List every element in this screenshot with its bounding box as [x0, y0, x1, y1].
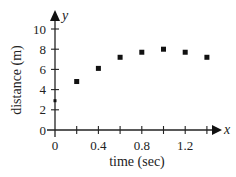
data-points [54, 47, 210, 103]
data-point [96, 66, 101, 71]
x-axis-variable: x [223, 122, 231, 137]
axes: 00.40.81.20246810 [33, 10, 222, 153]
data-point [118, 55, 123, 60]
y-axis-arrow-icon [50, 10, 60, 21]
x-tick-label: 0.8 [134, 138, 150, 153]
y-tick-label: 2 [40, 102, 47, 117]
x-tick-label: 0 [52, 138, 59, 153]
data-point [139, 50, 144, 55]
y-axis-variable: y [60, 8, 69, 23]
y-tick-label: 4 [40, 82, 47, 97]
x-tick-label: 1.2 [177, 138, 193, 153]
x-axis-arrow-icon [212, 125, 222, 135]
scatter-chart: 00.40.81.20246810 time (sec) distance (m… [0, 0, 236, 177]
data-point [161, 47, 166, 52]
x-axis-title: time (sec) [109, 154, 165, 170]
y-tick-label: 0 [40, 123, 47, 138]
y-tick-label: 6 [40, 62, 47, 77]
data-point [54, 99, 57, 102]
data-point [183, 50, 188, 55]
data-point [204, 55, 209, 60]
x-tick-label: 0.4 [90, 138, 107, 153]
y-axis-title: distance (m) [9, 45, 25, 115]
data-point [74, 79, 79, 84]
y-tick-label: 10 [33, 22, 46, 37]
y-tick-label: 8 [40, 42, 47, 57]
